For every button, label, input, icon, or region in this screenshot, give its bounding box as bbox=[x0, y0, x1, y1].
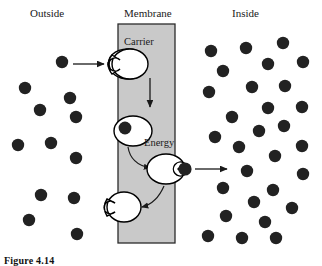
particle bbox=[220, 210, 232, 222]
particle bbox=[226, 111, 238, 123]
particle bbox=[217, 65, 229, 77]
particle bbox=[296, 101, 308, 113]
membrane-transport-diagram bbox=[0, 0, 322, 266]
particle bbox=[236, 232, 248, 244]
particle bbox=[279, 80, 291, 92]
carrier-empty-top bbox=[108, 49, 148, 79]
particle bbox=[277, 37, 289, 49]
figure-canvas: Outside Membrane Inside Carrier Energy F… bbox=[0, 0, 322, 266]
carrier-label: Carrier bbox=[124, 36, 154, 47]
carrier-releasing bbox=[147, 154, 192, 184]
particle bbox=[240, 42, 252, 54]
particle bbox=[253, 125, 265, 137]
region-label-outside: Outside bbox=[30, 7, 64, 19]
region-label-inside: Inside bbox=[232, 7, 259, 19]
particle bbox=[12, 139, 24, 151]
particle-group-inside bbox=[202, 37, 309, 244]
particle bbox=[278, 120, 290, 132]
released-particle bbox=[178, 162, 191, 175]
particle bbox=[203, 86, 215, 98]
particle bbox=[205, 45, 217, 57]
particle bbox=[64, 92, 76, 104]
particle bbox=[246, 81, 258, 93]
region-label-membrane: Membrane bbox=[124, 7, 172, 19]
particle bbox=[202, 230, 214, 242]
particle bbox=[241, 165, 253, 177]
particle bbox=[297, 56, 309, 68]
particle bbox=[34, 104, 46, 116]
particle bbox=[248, 196, 260, 208]
particle bbox=[297, 168, 309, 180]
particle bbox=[70, 152, 82, 164]
figure-caption: Figure 4.14 bbox=[4, 255, 54, 266]
particle bbox=[71, 228, 83, 240]
particle bbox=[286, 202, 298, 214]
particle bbox=[296, 140, 308, 152]
bound-particle bbox=[119, 122, 132, 135]
energy-label: Energy bbox=[144, 137, 174, 148]
particle bbox=[233, 141, 245, 153]
particle bbox=[217, 182, 229, 194]
particle bbox=[262, 102, 274, 114]
carrier-returning bbox=[104, 192, 141, 222]
particle bbox=[262, 58, 274, 70]
particle bbox=[259, 216, 271, 228]
particle bbox=[70, 111, 82, 123]
particle-group-outside bbox=[12, 56, 83, 240]
particle bbox=[267, 184, 279, 196]
particle bbox=[19, 82, 31, 94]
particle bbox=[56, 56, 68, 68]
particle bbox=[270, 232, 282, 244]
particle bbox=[209, 131, 221, 143]
particle bbox=[35, 189, 47, 201]
particle bbox=[23, 214, 35, 226]
particle bbox=[68, 192, 80, 204]
particle bbox=[269, 150, 281, 162]
particle bbox=[45, 137, 57, 149]
